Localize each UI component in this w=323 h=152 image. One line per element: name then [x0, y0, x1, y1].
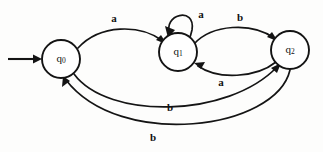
transition-q0-q1-path: [78, 29, 163, 48]
transition-q2-q0-path: [66, 70, 290, 124]
automaton-svg: q0 q1 q2 a a b a b b: [0, 0, 323, 152]
transition-q0-q1: [78, 29, 167, 48]
transition-q2-q1-path: [198, 62, 276, 75]
edge-label-q1-q2: b: [237, 11, 243, 23]
edge-label-q1-q1: a: [198, 8, 204, 20]
edge-label-q0-q1: a: [111, 12, 117, 24]
state-q0[interactable]: q0: [42, 40, 80, 78]
state-q2[interactable]: q2: [271, 31, 309, 69]
edge-label-q2-q1: a: [218, 76, 224, 88]
transition-q0-q2-path: [74, 67, 277, 107]
transition-q2-q0: [62, 70, 290, 124]
state-q1[interactable]: q1: [159, 33, 197, 71]
start-arrow: [8, 55, 42, 64]
state-q2-label-subscript: 2: [291, 47, 295, 56]
transition-q1-q2-path: [194, 27, 274, 44]
state-q1-label-subscript: 1: [179, 49, 183, 58]
transition-q2-q1: [194, 62, 276, 75]
edge-label-q2-q0: b: [150, 131, 156, 143]
transition-q1-q2: [194, 27, 278, 44]
state-q0-label-subscript: 0: [62, 56, 66, 65]
state-diagram-canvas: q0 q1 q2 a a b a b b: [0, 0, 323, 152]
edge-label-q0-q2: b: [167, 101, 173, 113]
start-arrow-head: [33, 55, 42, 64]
